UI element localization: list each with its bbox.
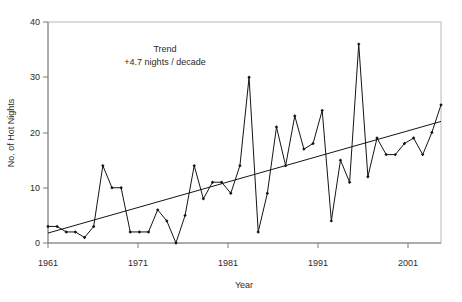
plot-frame (48, 22, 441, 243)
linear-trend-line (48, 121, 441, 233)
data-point-marker (439, 103, 442, 106)
data-point-marker (430, 131, 433, 134)
data-point-marker (339, 158, 342, 161)
x-axis-ticks (48, 243, 408, 248)
x-tick-label-1991: 1991 (308, 258, 328, 268)
data-point-marker (275, 125, 278, 128)
y-tick-label-10: 10 (30, 183, 40, 193)
x-tick-label-1971: 1971 (128, 258, 148, 268)
data-point-marker (183, 214, 186, 217)
data-point-marker (247, 76, 250, 79)
x-tick-label-1981: 1981 (218, 258, 238, 268)
hot-nights-series-line (48, 44, 441, 243)
x-tick-label-1961: 1961 (38, 258, 58, 268)
data-point-marker (138, 230, 141, 233)
y-tick-label-0: 0 (35, 238, 40, 248)
data-point-marker (119, 186, 122, 189)
data-point-marker (293, 114, 296, 117)
hot-nights-series-markers (46, 42, 442, 244)
data-point-marker (129, 230, 132, 233)
y-tick-label-30: 30 (30, 72, 40, 82)
data-point-marker (366, 175, 369, 178)
y-axis-ticks (43, 22, 48, 243)
y-axis-title: No. of Hot Nights (6, 98, 16, 167)
y-tick-label-20: 20 (30, 128, 40, 138)
hot-nights-line-chart: 0 10 20 30 40 1961 1971 1981 1991 2001 Y… (0, 0, 462, 302)
x-axis-title: Year (235, 280, 253, 290)
data-point-marker (46, 225, 49, 228)
data-point-marker (147, 230, 150, 233)
data-point-marker (174, 241, 177, 244)
trend-annotation-rate: +4.7 nights / decade (124, 57, 205, 67)
data-point-marker (320, 109, 323, 112)
data-point-marker (257, 230, 260, 233)
x-tick-label-2001: 2001 (398, 258, 418, 268)
data-point-marker (193, 164, 196, 167)
data-point-marker (357, 42, 360, 45)
y-tick-label-40: 40 (30, 17, 40, 27)
data-point-marker (238, 164, 241, 167)
chart-container: 0 10 20 30 40 1961 1971 1981 1991 2001 Y… (0, 0, 462, 302)
data-point-marker (266, 192, 269, 195)
data-point-marker (348, 181, 351, 184)
trend-annotation-title: Trend (153, 44, 176, 54)
data-point-marker (330, 219, 333, 222)
data-point-marker (110, 186, 113, 189)
data-point-marker (101, 164, 104, 167)
